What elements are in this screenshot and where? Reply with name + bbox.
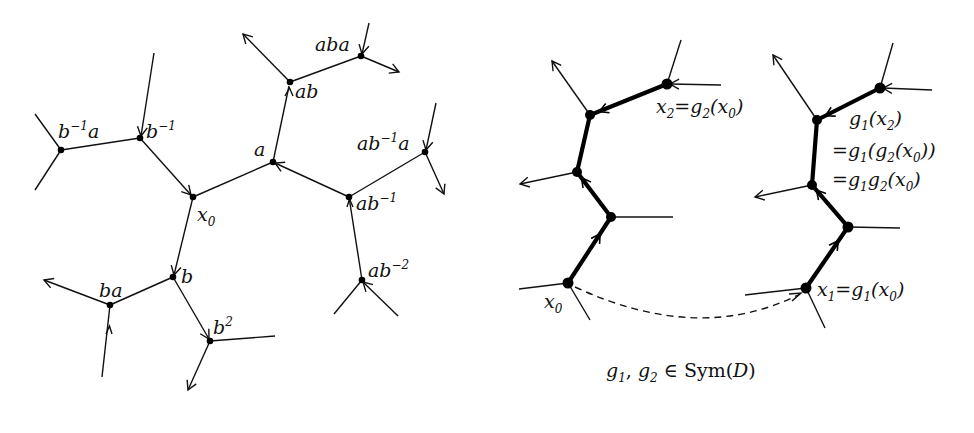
label-g1x2-line2: =g1(g2(x0)) — [832, 139, 936, 165]
edge-arrow — [883, 88, 932, 90]
label-ab-inv-a: ab−1a — [357, 131, 410, 154]
vertex-ab-inv-a — [422, 149, 429, 156]
label-b-inv-a: b−1a — [58, 119, 99, 142]
edge-arrow — [275, 163, 349, 197]
label-x0: x0 — [544, 290, 563, 316]
vertex-x0 — [190, 194, 197, 201]
vertex — [807, 180, 817, 190]
edge-stub — [880, 43, 893, 88]
edge-b-inv-a — [61, 138, 140, 150]
vertex-ab-inv — [346, 194, 353, 201]
vertex-ab-inv2 — [359, 277, 366, 284]
label-b: b — [181, 265, 193, 287]
label-ba: ba — [99, 279, 123, 301]
label-a: a — [254, 138, 265, 160]
vertex — [585, 110, 595, 120]
label-ab-inv: ab−1 — [356, 191, 397, 214]
dashed-arrowhead — [789, 293, 801, 301]
vertex — [843, 222, 854, 233]
label-b2: b2 — [213, 315, 233, 338]
vertex-x1 — [801, 283, 812, 294]
symmetry-panel: x0 x2=g2(x0) x1=g1(x0) g1(x2) =g1(g2(x0)… — [519, 40, 936, 385]
edge-stub — [667, 40, 681, 84]
cayley-edges — [35, 23, 444, 390]
edge-arrow — [243, 34, 290, 82]
cayley-labels: b−1a b−1 x0 a ab aba ab−1a ab−1 ab−2 b b… — [58, 33, 410, 338]
edge-arrow — [520, 172, 577, 184]
edge-arrow — [552, 61, 590, 115]
vertex-ba — [107, 302, 114, 309]
edge-arrow — [174, 197, 193, 275]
vertex-aba — [358, 53, 365, 60]
vertex — [606, 212, 616, 222]
label-x0: x0 — [197, 203, 216, 229]
vertex — [572, 167, 582, 177]
vertex-b — [170, 274, 177, 281]
edge-arrow — [188, 341, 210, 390]
label-x2-eq: x2=g2(x0) — [656, 95, 743, 121]
vertex-a — [270, 159, 277, 166]
label-x1-eq: x1=g1(x0) — [817, 278, 904, 304]
edge-stub — [519, 283, 568, 289]
label-ab-inv2: ab−2 — [368, 258, 409, 281]
dashed-map-arrow — [575, 287, 800, 318]
edge-stub — [334, 280, 362, 314]
vertex-b-inv — [137, 135, 144, 142]
edge — [290, 56, 361, 82]
edge-arrow — [670, 84, 721, 85]
label-ab: ab — [295, 80, 319, 102]
edge-arrow — [773, 55, 817, 120]
edge-stub — [848, 227, 900, 228]
vertex-ab — [287, 79, 294, 86]
label-aba: aba — [315, 33, 350, 55]
thick-path — [568, 84, 667, 283]
edge-arrow — [140, 138, 191, 195]
cayley-graph-panel: b−1a b−1 x0 a ab aba ab−1a ab−1 ab−2 b b… — [35, 23, 444, 390]
caption-symmetry-group: g1, g2 ∈ Sym(D) — [606, 359, 756, 385]
arrowhead — [285, 88, 293, 96]
edge — [193, 162, 273, 197]
edge-arrow — [755, 185, 812, 197]
vertex-b-inv-a — [58, 147, 65, 154]
vertex — [875, 83, 886, 94]
edge-arrow — [361, 56, 399, 72]
edge — [273, 86, 289, 162]
edge-stub — [35, 150, 61, 190]
figure-canvas: b−1a b−1 x0 a ab aba ab−1a ab−1 ab−2 b b… — [0, 0, 974, 433]
label-g1x2-line1: g1(x2) — [849, 107, 902, 133]
label-g1x2-line3: =g1g2(x0) — [832, 168, 921, 194]
edge-arrow — [426, 103, 436, 150]
vertex-x2 — [662, 79, 673, 90]
edge-arrow — [362, 23, 369, 54]
vertex-g1x2 — [812, 115, 822, 125]
edge-arrow — [425, 152, 444, 194]
vertex-b2 — [207, 338, 214, 345]
edge-arrow — [363, 282, 398, 316]
edge — [102, 305, 110, 377]
label-b-inv: b−1 — [146, 119, 176, 142]
base-path — [519, 40, 721, 320]
vertex-x0 — [563, 278, 574, 289]
